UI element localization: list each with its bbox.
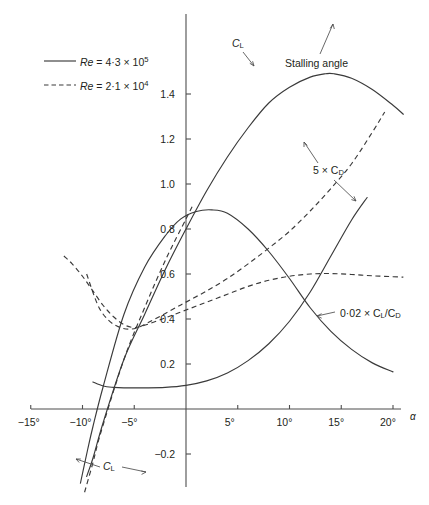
- x-tick-label: 20°: [380, 417, 396, 428]
- annotation-cl-top-subscript: L: [240, 41, 244, 50]
- plot-canvas: [0, 0, 429, 505]
- data-curves: [64, 73, 403, 492]
- x-tick-label: −5°: [121, 417, 137, 428]
- curve-4: [80, 210, 393, 483]
- curve-2: [93, 198, 367, 388]
- annotation-cl-bottom: CL: [103, 461, 115, 473]
- annotation-cl-top-symbol: C: [232, 37, 240, 49]
- curve-1: [85, 207, 193, 493]
- leader-clcd: [317, 312, 335, 316]
- x-tick-label: −15°: [18, 417, 40, 428]
- leader-cl-top: [243, 52, 254, 66]
- x-tick-label: 15°: [328, 417, 344, 428]
- x-tick-label: −10°: [70, 417, 92, 428]
- leader-5cd-dashed: [304, 142, 318, 163]
- annotation-five-cd-subscript: D: [338, 168, 343, 177]
- y-tick-label: 1.2: [160, 134, 175, 145]
- annotation-cl-top: CL: [232, 38, 244, 50]
- annotation-cl-over-cd-subscript2: D: [395, 311, 400, 320]
- legend-entry-0-exponent: 5: [144, 55, 148, 64]
- legend-entry-0: Re = 4·3 × 105: [80, 56, 148, 67]
- legend-entry-1-symbol: Re: [80, 80, 93, 92]
- y-tick-label: 1.4: [160, 89, 175, 100]
- x-axis-label: α: [410, 412, 416, 422]
- y-tick-label: 0.2: [160, 359, 175, 370]
- y-axis-ticks: [186, 94, 191, 454]
- legend-entry-1-value: = 2·1 × 10: [93, 80, 144, 92]
- y-tick-label: 1.0: [160, 179, 175, 190]
- legend-entry-0-symbol: Re: [80, 56, 93, 68]
- annotation-cl-bottom-symbol: C: [103, 460, 111, 472]
- y-tick-label: 0.8: [160, 224, 175, 235]
- x-tick-label: 10°: [277, 417, 293, 428]
- legend-entry-1-exponent: 4: [144, 79, 148, 88]
- annotation-cl-over-cd-symbol: 0·02 × C: [340, 307, 381, 319]
- legend-sample-lines: [44, 61, 76, 85]
- leader-stalling-angle: [320, 24, 333, 54]
- leader-cl-bottom-left: [76, 459, 100, 467]
- chart-figure: Re = 4·3 × 105 Re = 2·1 × 104 CL Stallin…: [0, 0, 429, 505]
- x-tick-label: 5°: [225, 417, 235, 428]
- leader-5cd-solid: [334, 180, 356, 201]
- annotation-cl-bottom-subscript: L: [111, 464, 115, 473]
- y-tick-label: 0.6: [160, 269, 175, 280]
- legend-entry-0-value: = 4·3 × 10: [93, 56, 144, 68]
- leader-cl-bottom-right-arrow: [141, 471, 146, 474]
- annotation-cl-over-cd-symbol2: /C: [385, 307, 396, 319]
- x-axis-ticks: [31, 405, 393, 409]
- y-tick-label: 0.4: [160, 314, 175, 325]
- annotation-five-cd: 5 × CD: [313, 165, 344, 177]
- y-tick-label: −0.2: [154, 449, 175, 460]
- annotation-five-cd-symbol: 5 × C: [313, 164, 338, 176]
- legend-entry-1: Re = 2·1 × 104: [80, 80, 148, 91]
- annotation-stalling-angle: Stalling angle: [285, 58, 348, 69]
- annotation-cl-over-cd: 0·02 × CL/CD: [340, 308, 401, 320]
